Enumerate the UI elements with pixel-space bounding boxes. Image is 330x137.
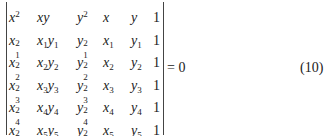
equation-number: (10): [300, 58, 323, 78]
matrix-row: x2xyy2xy1: [7, 8, 163, 30]
matrix-cell: x3: [103, 76, 114, 96]
matrix-cell: x2y2: [37, 53, 58, 73]
matrix-cell: 1: [153, 98, 160, 118]
matrix-cell: x4y4: [37, 98, 58, 118]
matrix-cell: 1: [153, 76, 160, 96]
determinant-matrix: x2xyy2xy1x21x1y1y21x1y11x22x2y2y22x2y21x…: [6, 2, 164, 135]
matrix-cell: x2: [103, 53, 114, 73]
matrix-cell: y2: [77, 8, 88, 28]
matrix-cell: 1: [153, 31, 160, 51]
matrix-cell: y24: [77, 98, 89, 118]
matrix-cell: y22: [77, 53, 89, 73]
matrix-cell: x21: [9, 31, 21, 51]
matrix-cell: y2: [131, 53, 142, 73]
matrix-cell: x24: [9, 98, 21, 118]
matrix-cell: xy: [37, 8, 49, 28]
matrix-row: x25x5y5y25x5y51: [7, 121, 163, 137]
matrix-cell: y3: [131, 76, 142, 96]
matrix-cell: 1: [153, 121, 160, 137]
matrix-row: x24x4y4y24x4y41: [7, 98, 163, 120]
matrix-row: x21x1y1y21x1y11: [7, 31, 163, 53]
matrix-cell: y5: [131, 121, 142, 137]
matrix-cell: x: [103, 8, 109, 28]
matrix-cell: y1: [131, 31, 142, 51]
matrix-cell: y: [131, 8, 137, 28]
matrix-cell: y23: [77, 76, 89, 96]
matrix-cell: x4: [103, 98, 114, 118]
matrix-cell: y4: [131, 98, 142, 118]
matrix-cell: x22: [9, 53, 21, 73]
matrix-cell: y25: [77, 121, 89, 137]
matrix-cell: x1y1: [37, 31, 58, 51]
matrix-cell: x25: [9, 121, 21, 137]
matrix-cell: x3y3: [37, 76, 58, 96]
matrix-cell: y21: [77, 31, 89, 51]
matrix-cell: 1: [153, 8, 160, 28]
matrix-cell: x23: [9, 76, 21, 96]
matrix-cell: 1: [153, 53, 160, 73]
matrix-cell: x2: [9, 8, 20, 28]
matrix-row: x22x2y2y22x2y21: [7, 53, 163, 75]
matrix-row: x23x3y3y23x3y31: [7, 76, 163, 98]
matrix-cell: x5y5: [37, 121, 58, 137]
matrix-cell: x5: [103, 121, 114, 137]
equals-zero: = 0: [167, 58, 185, 78]
matrix-cell: x1: [103, 31, 114, 51]
